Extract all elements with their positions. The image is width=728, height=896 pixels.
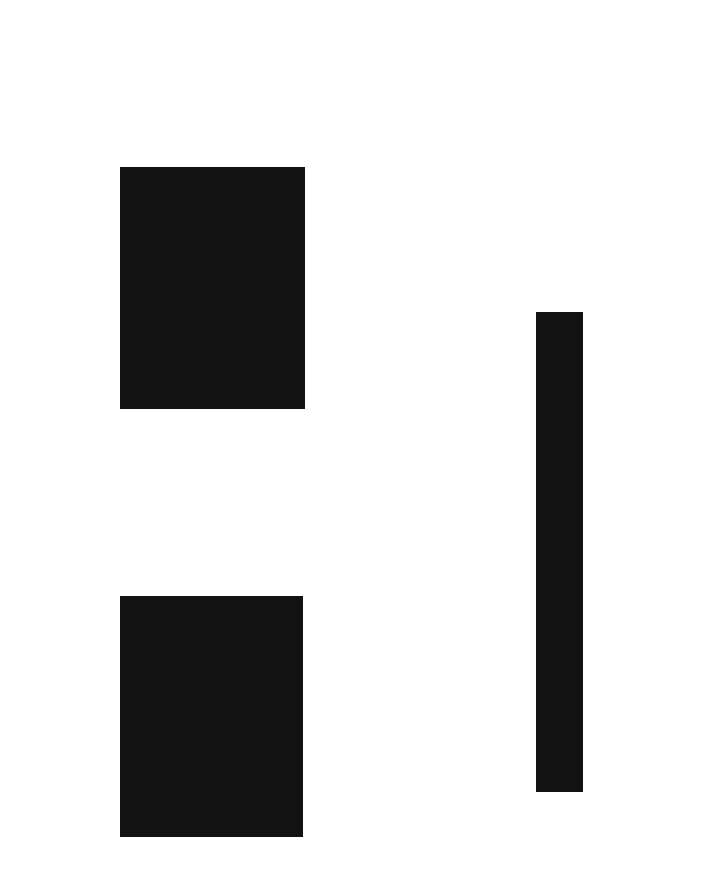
redaction-block-right [536,312,583,792]
redaction-block-bottom [120,596,303,837]
redaction-block-top [120,167,305,409]
document-page [0,0,728,896]
